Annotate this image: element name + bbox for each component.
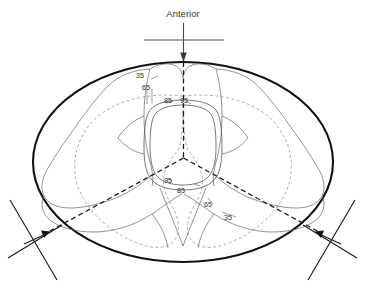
figure-root: Anterior	[0, 0, 365, 292]
isodose-label-85-upper: 85	[164, 96, 172, 105]
isodose-label-65-upper-left: 65	[142, 83, 150, 92]
isodose-label-95-upper: 95	[180, 96, 188, 105]
anterior-direction-arrow	[144, 23, 224, 62]
isodose-label-35-lower-right: 35	[224, 213, 232, 222]
anterior-label: Anterior	[166, 8, 199, 19]
isodose-label-65-lower-right: 65	[204, 200, 212, 209]
isodose-diagram: Anterior	[0, 0, 365, 292]
isodose-label-35-upper-left: 35	[136, 71, 144, 80]
isodose-label-85-lower: 85	[177, 186, 185, 195]
isodose-label-95-lower: 95	[164, 176, 172, 185]
body-outline	[33, 62, 333, 262]
